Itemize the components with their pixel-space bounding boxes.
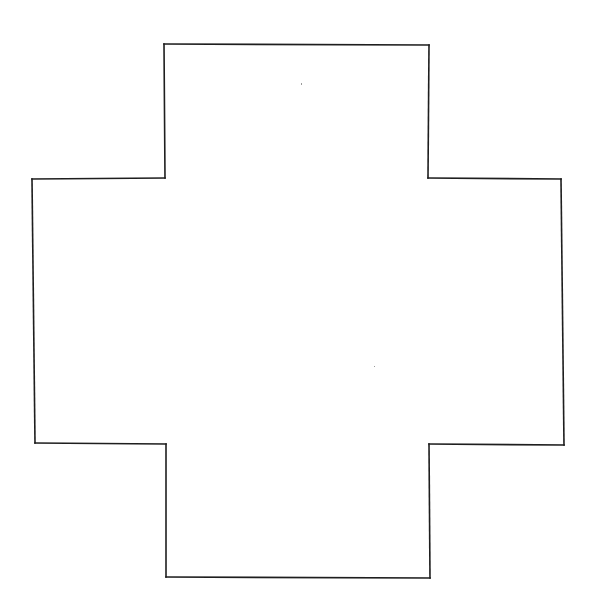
top-arm-right-edge — [428, 45, 429, 178]
scan-speck — [374, 366, 375, 367]
cross-shape — [32, 44, 564, 578]
left-arm-bottom-edge — [35, 443, 166, 444]
left-arm-left-edge — [32, 179, 35, 443]
scan-speck — [301, 83, 302, 85]
top-arm-left-edge — [164, 44, 165, 178]
right-arm-top-edge — [428, 178, 561, 179]
top-arm-top-edge — [164, 44, 429, 45]
left-arm-top-edge — [32, 178, 165, 179]
right-arm-bottom-edge — [429, 444, 564, 445]
bottom-arm-right-edge — [429, 444, 430, 578]
cross-diagram — [0, 0, 594, 610]
right-arm-right-edge — [561, 179, 564, 445]
bottom-arm-bottom-edge — [166, 577, 430, 578]
